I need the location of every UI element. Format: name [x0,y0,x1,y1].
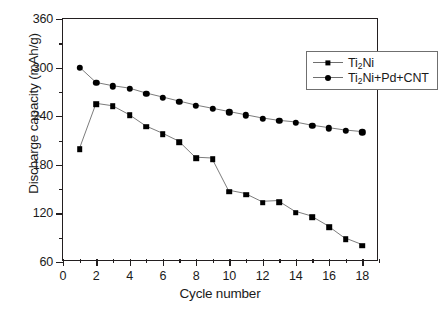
data-point [359,129,365,135]
data-point [209,106,215,112]
data-point [243,192,249,198]
data-point [176,98,182,104]
y-tick-label: 180 [33,158,53,172]
x-tick-label: 12 [256,269,270,283]
y-tick-major [56,165,63,166]
legend-marker-square-icon [313,57,343,69]
data-point [343,128,349,134]
x-tick-label: 10 [223,269,237,283]
y-tick-major [56,116,63,117]
data-point [193,102,199,108]
data-point [360,243,366,249]
y-tick-label: 120 [33,206,53,220]
x-tick-label: 2 [93,269,100,283]
data-point [226,109,232,115]
data-point [93,80,99,86]
x-tick-label: 4 [126,269,133,283]
data-point [160,131,166,137]
data-point [309,123,315,129]
x-tick-minor [379,259,380,263]
x-tick-label: 0 [60,269,67,283]
data-point [310,215,316,221]
y-tick-major [56,262,63,263]
chart-legend: Ti2Ni Ti2Ni+Pd+CNT [306,51,438,90]
y-tick-major [56,213,63,214]
data-point [177,139,183,145]
legend-label-series-1: Ti2Ni [348,56,374,70]
data-point [93,101,99,107]
data-point [259,115,265,121]
x-axis-label: Cycle number [62,286,378,301]
data-point [210,156,216,162]
data-point [326,125,332,131]
data-point [243,112,249,118]
y-tick-label: 300 [33,61,53,75]
y-tick-label: 360 [33,12,53,26]
y-tick-label: 60 [39,255,53,269]
data-point [77,147,83,153]
data-point [127,113,133,119]
data-point [126,85,132,91]
y-tick-label: 240 [33,109,53,123]
data-point [76,64,82,70]
x-tick-label: 14 [289,269,303,283]
data-point [227,189,233,195]
data-point [193,156,199,162]
y-tick-major [56,68,63,69]
plot-area: 60120180240300360 024681012141618 Ti2Ni … [62,18,378,261]
data-point [110,104,116,110]
legend-label-series-2: Ti2Ni+Pd+CNT [348,71,429,85]
data-point [260,200,266,206]
y-tick-major [56,19,63,20]
data-point [143,124,149,130]
legend-marker-circle-icon [313,72,343,84]
data-point [326,224,332,230]
data-point [110,83,116,89]
legend-item-series-1: Ti2Ni [313,55,429,70]
data-point [160,94,166,100]
x-tick-label: 8 [193,269,200,283]
x-tick-label: 18 [356,269,370,283]
figure-caption [28,307,378,314]
data-point [293,210,299,216]
data-point [276,199,282,205]
data-point [293,119,299,125]
data-point [276,118,282,124]
x-tick-label: 16 [322,269,336,283]
data-point [143,90,149,96]
legend-item-series-2: Ti2Ni+Pd+CNT [313,70,429,85]
data-point [343,237,349,243]
x-tick-label: 6 [159,269,166,283]
